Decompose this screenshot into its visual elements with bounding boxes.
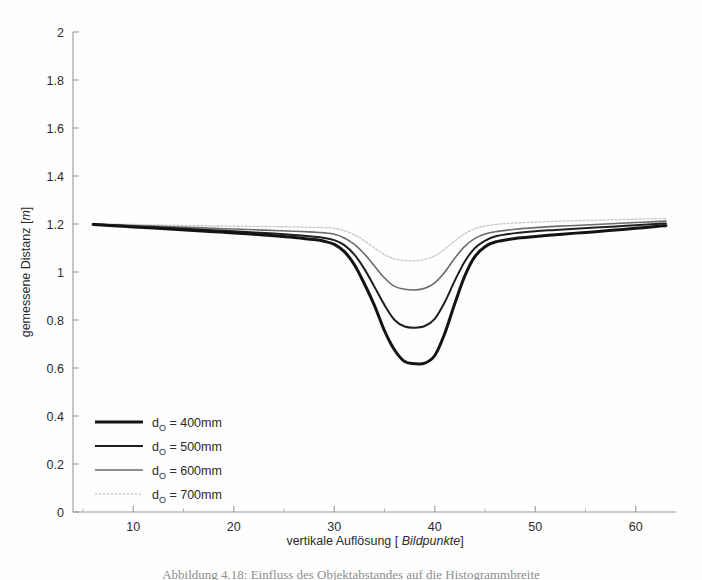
x-tick-label: 50 — [528, 520, 542, 534]
data-series-layer — [93, 218, 666, 364]
x-tick-label: 30 — [327, 520, 341, 534]
legend-label: dO = 600mm — [152, 464, 222, 481]
y-tick-label: 2 — [57, 26, 64, 40]
x-tick-label: 20 — [227, 520, 241, 534]
axes-spines — [73, 32, 676, 512]
y-tick-label: 0.4 — [47, 410, 64, 424]
y-tick-label: 0.2 — [47, 458, 64, 472]
legend-label: dO = 700mm — [152, 488, 222, 505]
figure-container: 00.20.40.60.811.21.41.61.82 102030405060… — [0, 0, 702, 580]
x-axis-title: vertikale Auflösung [ Bildpunkte] — [286, 534, 463, 548]
series-line — [93, 224, 666, 328]
y-tick-label: 1.6 — [47, 122, 64, 136]
x-axis-tick-labels: 102030405060 — [126, 520, 642, 534]
line-chart: 00.20.40.60.811.21.41.61.82 102030405060… — [0, 0, 702, 580]
y-tick-label: 1 — [57, 266, 64, 280]
legend-label: dO = 500mm — [152, 440, 222, 457]
y-axis-title: gemessene Distanz [m] — [19, 207, 33, 338]
y-tick-label: 0 — [57, 506, 64, 520]
x-tick-label: 40 — [428, 520, 442, 534]
y-axis-ticks — [73, 32, 79, 512]
figure-caption: Abbildung 4.18: Einfluss des Objektabsta… — [0, 566, 702, 580]
y-axis-tick-labels: 00.20.40.60.811.21.41.61.82 — [47, 26, 64, 520]
y-tick-label: 1.2 — [47, 218, 64, 232]
legend-label: dO = 400mm — [152, 416, 222, 433]
y-tick-label: 1.4 — [47, 170, 64, 184]
y-tick-label: 0.6 — [47, 362, 64, 376]
y-tick-label: 0.8 — [47, 314, 64, 328]
y-tick-label: 1.8 — [47, 74, 64, 88]
x-tick-label: 10 — [126, 520, 140, 534]
chart-legend: dO = 400mmdO = 500mmdO = 600mmdO = 700mm — [95, 416, 222, 505]
x-tick-label: 60 — [629, 520, 643, 534]
